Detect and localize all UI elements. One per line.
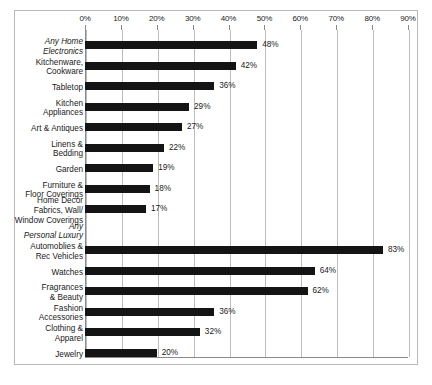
bar (85, 349, 157, 357)
bar (85, 287, 308, 295)
bar-row: Any Home Electronics48% (0, 32, 432, 54)
chart-page: 0%10%20%30%40%50%60%70%80%90% Any Home E… (0, 0, 432, 385)
bar (85, 308, 214, 316)
bar-value-label: 36% (219, 81, 235, 90)
bar-value-label: 18% (155, 184, 171, 193)
category-label: Tabletop (0, 83, 83, 93)
bar-value-label: 64% (320, 266, 336, 275)
category-label: Garden (0, 165, 83, 175)
bar-row: Automoblies & Rec Vehicles83% (0, 237, 432, 259)
bar-value-label: 27% (187, 122, 203, 131)
category-label: Art & Antiques (0, 124, 83, 134)
x-axis-tick-label: 90% (400, 14, 415, 23)
bar (85, 328, 200, 336)
bar (85, 205, 146, 213)
bar-row: Fashion Accessories36% (0, 299, 432, 321)
x-axis-tick-label: 0% (79, 14, 90, 23)
bar-row: Jewelry20% (0, 340, 432, 362)
bar-row: Watches64% (0, 258, 432, 280)
x-axis-tick-label: 10% (113, 14, 128, 23)
bar (85, 144, 164, 152)
bar-value-label: 62% (313, 286, 329, 295)
horizontal-bar-chart: 0%10%20%30%40%50%60%70%80%90% Any Home E… (0, 0, 432, 385)
bar (85, 123, 182, 131)
bar (85, 267, 315, 275)
x-axis-tick-label: 30% (185, 14, 200, 23)
category-label: Watches (0, 268, 83, 278)
bar-row: Kitchen Appliances29% (0, 94, 432, 116)
category-label: Jewelry (0, 350, 83, 360)
bar-value-label: 22% (169, 143, 185, 152)
bar-value-label: 83% (388, 245, 404, 254)
bar-value-label: 17% (151, 204, 167, 213)
bar-row: Furniture & Floor Coverings18% (0, 176, 432, 198)
bar-row: Linens & Bedding22% (0, 135, 432, 157)
bar (85, 164, 153, 172)
bar (85, 82, 214, 90)
bar-row: Art & Antiques27% (0, 114, 432, 136)
bar-value-label: 36% (219, 307, 235, 316)
bar-row: Tabletop36% (0, 73, 432, 95)
bar-value-label: 48% (262, 40, 278, 49)
bar-row: Kitchenware, Cookware42% (0, 53, 432, 75)
bar (85, 41, 257, 49)
bar (85, 103, 189, 111)
bar-value-label: 32% (205, 327, 221, 336)
bar-value-label: 19% (158, 163, 174, 172)
bar-value-label: 20% (162, 348, 178, 357)
x-axis-tick-label: 20% (149, 14, 164, 23)
x-axis-tick-label: 80% (364, 14, 379, 23)
bar-row: Fragrances & Beauty62% (0, 278, 432, 300)
bar-value-label: 42% (241, 61, 257, 70)
bar (85, 246, 383, 254)
bar-value-label: 29% (194, 102, 210, 111)
bar (85, 185, 150, 193)
x-axis-tick-label: 40% (221, 14, 236, 23)
bar-row: Garden19% (0, 155, 432, 177)
bar-row: Any Personal Luxury (0, 217, 432, 239)
bar (85, 62, 236, 70)
bar-row: Clothing & Apparel32% (0, 319, 432, 341)
x-axis-tick-label: 70% (329, 14, 344, 23)
x-axis-tick-label: 60% (293, 14, 308, 23)
x-axis-tick-label: 50% (257, 14, 272, 23)
bar-row: Home Decor Fabrics, Wall/ Window Coverin… (0, 196, 432, 218)
